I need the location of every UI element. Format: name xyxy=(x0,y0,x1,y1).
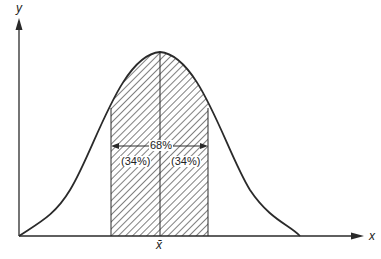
y-axis-label: y xyxy=(16,2,22,14)
y-axis-arrow-icon xyxy=(16,18,23,30)
x-axis-arrow-icon xyxy=(351,233,364,240)
right-percent-label: (34%) xyxy=(170,156,201,167)
mean-label: x̄ xyxy=(156,239,162,251)
x-axis-label: x xyxy=(369,230,375,242)
normal-curve-diagram xyxy=(0,0,381,259)
left-percent-label: (34%) xyxy=(120,156,151,167)
total-percent-label: 68% xyxy=(149,140,173,151)
